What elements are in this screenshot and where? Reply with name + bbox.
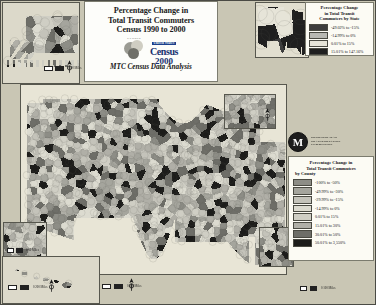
legend-row[interactable]: -49.99% to -30% bbox=[293, 187, 369, 195]
legend-swatch bbox=[293, 205, 312, 213]
legend-row[interactable]: 15.01% to 147.16% bbox=[309, 48, 370, 55]
legend-label: 0.01% to 15% bbox=[315, 214, 338, 219]
right-scale-label: 0 100 Miles bbox=[321, 286, 335, 290]
map-poster: 0 500 Miles Percentage Change in Total T… bbox=[0, 0, 376, 305]
county-legend: Percentage Change in Total Transit Commu… bbox=[288, 156, 374, 261]
legend-label: -29.99% to -15% bbox=[315, 197, 343, 202]
legend-label: -14.99% to 0% bbox=[315, 206, 340, 211]
legend-swatch bbox=[309, 40, 328, 47]
right-scale-bar: 0 100 Miles bbox=[300, 286, 335, 291]
census-globe-logo: C E N S U S bbox=[124, 37, 144, 60]
mtc-logo: M METROPOLITAN TRANSPORTATION COMMISSION bbox=[288, 129, 374, 154]
left-detail-inset-map[interactable] bbox=[3, 222, 47, 260]
legend-swatch bbox=[293, 239, 312, 247]
legend-swatch bbox=[309, 24, 328, 31]
logo-row: C E N S U S United States Census 2000 bbox=[85, 37, 217, 61]
legend-swatch bbox=[293, 196, 312, 204]
legend-swatch bbox=[293, 187, 312, 195]
legend-row[interactable]: 0.01% to 15% bbox=[309, 40, 370, 47]
legend-row[interactable]: -29.99% to -15% bbox=[293, 196, 369, 204]
left-inset-scale-bar: 0 50 Miles bbox=[7, 248, 39, 253]
legend-row[interactable]: -49.02% to -15% bbox=[309, 24, 370, 31]
mtc-monogram-icon: M bbox=[288, 132, 308, 152]
legend-label: -49.99% to -30% bbox=[315, 189, 343, 194]
legend-row[interactable]: -100% to -50% bbox=[293, 179, 369, 187]
title-line-2: Total Transit Commuters bbox=[85, 16, 217, 26]
county-legend-rows: -100% to -50%-49.99% to -30%-29.99% to -… bbox=[293, 179, 369, 247]
legend-row[interactable]: 50.01% to 3,550% bbox=[293, 239, 369, 247]
county-legend-title-3: by County bbox=[293, 171, 369, 177]
mtc-line-3: COMMISSION bbox=[311, 143, 341, 146]
state-legend: Percentage Change in Total Transit Commu… bbox=[305, 2, 374, 56]
main-scale-bar: 0 500 Miles bbox=[102, 284, 141, 289]
hawaii-scale-bar: 0 200 Miles bbox=[8, 285, 47, 290]
legend-label: 30.01% to 50% bbox=[315, 232, 340, 237]
alaska-north-arrow bbox=[66, 60, 73, 73]
left-inset-scale-label: 0 50 Miles bbox=[26, 248, 39, 252]
census-2000-wordmark: United States Census 2000 bbox=[150, 31, 178, 66]
legend-label: -100% to -50% bbox=[315, 180, 340, 185]
legend-label: 15.01% to 30% bbox=[315, 223, 340, 228]
legend-row[interactable]: -14.99% to 0% bbox=[293, 205, 369, 213]
states-map-canvas bbox=[256, 3, 308, 57]
legend-swatch bbox=[293, 213, 312, 221]
state-legend-rows: -49.02% to -15%-14.99% to 0%0.01% to 15%… bbox=[309, 24, 370, 55]
hawaii-scale-label: 0 200 Miles bbox=[33, 285, 47, 289]
legend-swatch bbox=[309, 48, 328, 55]
state-legend-title-3: Commuters by State bbox=[309, 16, 370, 22]
legend-label: 50.01% to 3,550% bbox=[315, 240, 345, 245]
legend-label: -49.02% to -15% bbox=[331, 25, 359, 30]
title-block: Percentage Change in Total Transit Commu… bbox=[84, 1, 218, 82]
title-line-1: Percentage Change in bbox=[85, 6, 217, 16]
states-overview-map[interactable] bbox=[255, 2, 309, 58]
main-north-arrow bbox=[128, 278, 135, 291]
hawaii-north-arrow bbox=[48, 279, 55, 292]
northeast-north-arrow bbox=[264, 108, 271, 121]
poster-title: Percentage Change in Total Transit Commu… bbox=[85, 2, 217, 35]
left-detail-map-canvas bbox=[4, 223, 46, 259]
mtc-logo-text: METROPOLITAN TRANSPORTATION COMMISSION bbox=[311, 136, 341, 146]
legend-row[interactable]: -14.99% to 0% bbox=[309, 32, 370, 39]
legend-row[interactable]: 0.01% to 15% bbox=[293, 213, 369, 221]
legend-row[interactable]: 15.01% to 30% bbox=[293, 222, 369, 230]
legend-label: 15.01% to 147.16% bbox=[331, 49, 364, 54]
legend-swatch bbox=[293, 179, 312, 187]
poster-subtitle: MTC Census Data Analysis bbox=[85, 63, 217, 71]
legend-swatch bbox=[309, 32, 328, 39]
alaska-scale-bar: 0 500 Miles bbox=[44, 66, 81, 71]
legend-swatch bbox=[293, 222, 312, 230]
census-wordmark-small: United States bbox=[152, 42, 177, 45]
legend-label: -14.99% to 0% bbox=[331, 33, 356, 38]
legend-label: 0.01% to 15% bbox=[331, 41, 354, 46]
legend-row[interactable]: 30.01% to 50% bbox=[293, 230, 369, 238]
legend-swatch bbox=[293, 230, 312, 238]
globe-icon bbox=[124, 40, 144, 60]
